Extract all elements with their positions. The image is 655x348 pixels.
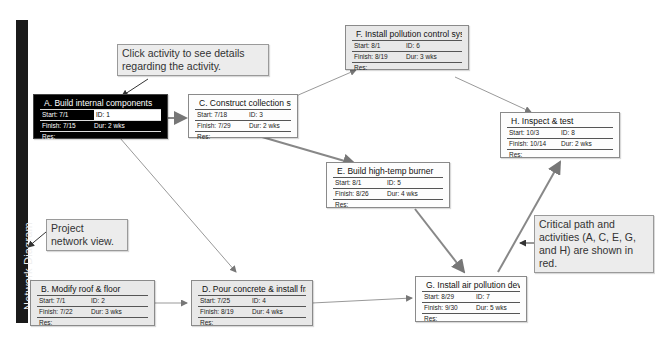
start-value: 8/29 — [441, 293, 454, 300]
callout-text: Critical path and activities (A, C, E, G… — [539, 218, 636, 269]
id-value: 6 — [416, 42, 420, 49]
id-value: 3 — [259, 111, 263, 118]
finish-value: 7/22 — [60, 308, 73, 315]
finish-label: Finish: — [39, 308, 58, 315]
dur-value: 3 wks — [105, 308, 122, 315]
id-label: ID: — [91, 297, 99, 304]
finish-value: 7/29 — [218, 122, 231, 129]
activity-res-row: Res: — [352, 62, 462, 73]
activity-finish-row: Finish: 7/15 Dur: 2 wks — [40, 120, 161, 131]
activity-title: C. Construct collection stack — [195, 97, 291, 109]
activity-finish-row: Finish: 7/29 Dur: 2 wks — [195, 120, 291, 131]
finish-label: Finish: — [42, 122, 61, 129]
id-label: ID: — [96, 111, 104, 118]
activity-title: A. Build internal components — [40, 97, 161, 109]
res-label: Res: — [509, 150, 522, 160]
callout-click-activity: Click activity to see details regarding … — [117, 44, 269, 76]
activity-finish-row: Finish: 9/30 Dur: 5 wks — [422, 302, 520, 313]
res-label: Res: — [200, 318, 213, 328]
res-label: Res: — [354, 63, 367, 73]
dur-label: Dur: — [91, 308, 103, 315]
id-value: 4 — [262, 297, 266, 304]
activity-start-row: Start: 8/1 ID: 6 — [352, 40, 462, 51]
dur-value: 3 wks — [420, 53, 437, 60]
id-label: ID: — [252, 297, 260, 304]
finish-label: Finish: — [354, 53, 373, 60]
finish-value: 9/30 — [445, 304, 458, 311]
activity-res-row: Res: — [333, 199, 443, 210]
activity-res-row: Res: — [195, 131, 291, 142]
start-label: Start: — [354, 42, 370, 49]
activity-node-g[interactable]: G. Install air pollution device Start: 8… — [415, 276, 527, 322]
finish-label: Finish: — [200, 308, 219, 315]
finish-label: Finish: — [335, 190, 354, 197]
finish-value: 8/26 — [356, 190, 369, 197]
dur-value: 4 wks — [266, 308, 283, 315]
activity-finish-row: Finish: 8/26 Dur: 4 wks — [333, 188, 443, 199]
activity-res-row: Res: — [507, 149, 613, 160]
activity-title: H. Inspect & test — [507, 115, 613, 127]
activity-start-row: Start: 7/1 ID: 2 — [37, 295, 148, 306]
dur-label: Dur: — [406, 53, 418, 60]
res-label: Res: — [424, 314, 437, 324]
start-label: Start: — [39, 297, 55, 304]
edge-f-h — [455, 77, 531, 112]
activity-node-d[interactable]: D. Pour concrete & install frame Start: … — [191, 280, 313, 326]
activity-title: F. Install pollution control system — [352, 28, 462, 40]
edge-a-d — [120, 138, 236, 272]
activity-node-a[interactable]: A. Build internal components Start: 7/1 … — [33, 94, 168, 139]
start-label: Start: — [424, 293, 440, 300]
activity-title: B. Modify roof & floor — [37, 283, 148, 295]
id-label: ID: — [387, 179, 395, 186]
dur-label: Dur: — [387, 190, 399, 197]
dur-value: 5 wks — [490, 304, 507, 311]
id-value: 1 — [106, 111, 110, 118]
dur-value: 4 wks — [401, 190, 418, 197]
activity-node-b[interactable]: B. Modify roof & floor Start: 7/1 ID: 2 … — [30, 280, 155, 326]
activity-start-row: Start: 7/25 ID: 4 — [198, 295, 306, 306]
activity-start-row: Start: 7/18 ID: 3 — [195, 109, 291, 120]
dur-label: Dur: — [94, 122, 106, 129]
id-value: 8 — [571, 129, 575, 136]
callout-pointer-network — [28, 232, 46, 247]
start-label: Start: — [200, 297, 216, 304]
activity-node-e[interactable]: E. Build high-temp burner Start: 8/1 ID:… — [326, 162, 450, 208]
activity-res-row: Res: — [198, 317, 306, 328]
activity-res-row: Res: — [37, 317, 148, 328]
res-label: Res: — [42, 132, 55, 142]
activity-finish-row: Finish: 8/19 Dur: 4 wks — [198, 306, 306, 317]
activity-node-f[interactable]: F. Install pollution control system Star… — [345, 25, 469, 70]
activity-node-c[interactable]: C. Construct collection stack Start: 7/1… — [188, 94, 298, 138]
activity-title: G. Install air pollution device — [422, 279, 520, 291]
dur-label: Dur: — [249, 122, 261, 129]
activity-res-row: Res: — [40, 131, 161, 142]
start-value: 10/3 — [526, 129, 539, 136]
activity-finish-row: Finish: 8/19 Dur: 3 wks — [352, 51, 462, 62]
callout-critical-path: Critical path and activities (A, C, E, G… — [534, 215, 654, 273]
start-label: Start: — [509, 129, 525, 136]
id-value: 2 — [101, 297, 105, 304]
dur-value: 2 wks — [263, 122, 280, 129]
finish-label: Finish: — [509, 140, 528, 147]
start-label: Start: — [42, 111, 58, 118]
res-label: Res: — [197, 132, 210, 142]
callout-project-network: Project network view. — [46, 219, 128, 251]
start-value: 7/25 — [217, 297, 230, 304]
activity-node-h[interactable]: H. Inspect & test Start: 10/3 ID: 8 Fini… — [500, 112, 620, 158]
activity-start-row: Start: 8/29 ID: 7 — [422, 291, 520, 302]
dur-label: Dur: — [476, 304, 488, 311]
dur-value: 2 wks — [575, 140, 592, 147]
id-label: ID: — [249, 111, 257, 118]
finish-value: 8/19 — [375, 53, 388, 60]
id-value: 7 — [486, 293, 490, 300]
activity-finish-row: Finish: 7/22 Dur: 3 wks — [37, 306, 148, 317]
id-label: ID: — [561, 129, 569, 136]
start-label: Start: — [335, 179, 351, 186]
finish-value: 8/19 — [221, 308, 234, 315]
activity-title: D. Pour concrete & install frame — [198, 283, 306, 295]
callout-text: Click activity to see details regarding … — [122, 47, 245, 72]
activity-finish-row: Finish: 10/14 Dur: 2 wks — [507, 138, 613, 149]
activity-start-row: Start: 7/1 ID: 1 — [40, 109, 161, 120]
id-label: ID: — [476, 293, 484, 300]
edge-d-g — [312, 298, 412, 303]
